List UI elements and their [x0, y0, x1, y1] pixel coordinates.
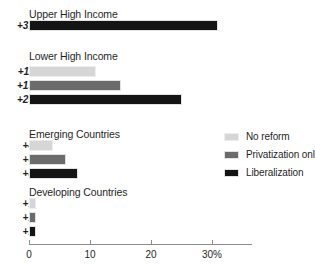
x-axis [29, 244, 252, 245]
bar-track [29, 140, 53, 151]
bar-track [29, 66, 96, 77]
bar-track [29, 80, 121, 91]
bar-row: +11 [0, 66, 315, 77]
group-title: Lower High Income [29, 50, 118, 62]
bar-row: +1 [0, 212, 315, 223]
bar-track [29, 154, 66, 165]
x-axis-tick-label: 0 [26, 249, 32, 260]
bar-track [29, 212, 36, 223]
legend-swatch-icon [224, 133, 239, 141]
x-axis-tick [29, 240, 30, 244]
legend-swatch-icon [224, 169, 239, 177]
x-axis-tick [90, 240, 91, 244]
group-title: Upper High Income [29, 8, 118, 20]
legend-item[interactable]: Privatization only [224, 147, 315, 162]
bar [29, 80, 121, 91]
bar-row: +1 [0, 198, 315, 209]
legend-item[interactable]: No reform [224, 129, 315, 144]
legend-swatch-icon [224, 151, 239, 159]
bar-row: +15 [0, 80, 315, 91]
x-axis-tick [212, 240, 213, 244]
bar-row: +31 [0, 20, 315, 31]
bar [29, 212, 36, 223]
bar-track [29, 94, 182, 105]
x-axis-tick-label: 30% [202, 249, 222, 260]
bar-track [29, 20, 218, 31]
bar-row: +25 [0, 94, 315, 105]
legend-item[interactable]: Liberalization [224, 165, 315, 180]
legend-label: No reform [246, 131, 290, 142]
bar [29, 66, 96, 77]
bar [29, 154, 66, 165]
legend-label: Privatization only [246, 149, 315, 160]
bar [29, 20, 218, 31]
x-axis-tick-label: 20 [145, 249, 156, 260]
bar [29, 140, 53, 151]
bar [29, 168, 78, 179]
bar-track [29, 226, 36, 237]
bar [29, 198, 36, 209]
chart-legend: No reformPrivatization onlyLiberalizatio… [224, 129, 315, 183]
legend-label: Liberalization [246, 167, 304, 178]
x-axis-tick [151, 240, 152, 244]
bar-row: +1 [0, 226, 315, 237]
group-title: Developing Countries [29, 186, 127, 198]
x-axis-tick-label: 10 [84, 249, 95, 260]
bar-track [29, 168, 78, 179]
bar-track [29, 198, 36, 209]
bar [29, 94, 182, 105]
bar-chart: Upper High Income+31Lower High Income+11… [0, 0, 315, 268]
bar [29, 226, 36, 237]
group-title: Emerging Countries [29, 128, 120, 140]
